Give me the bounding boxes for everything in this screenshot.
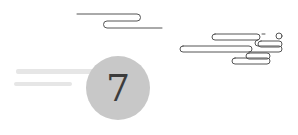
placeholder-bar	[14, 82, 72, 86]
top-cloud-icon	[77, 14, 162, 28]
badge-numeral: 7	[86, 56, 150, 120]
right-cloud-icon	[180, 33, 282, 64]
